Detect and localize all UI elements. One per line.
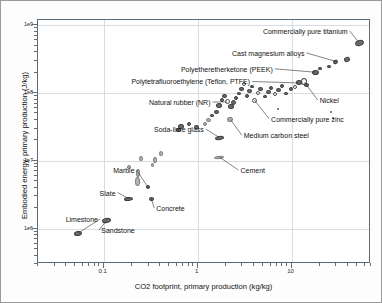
y-tick <box>34 95 37 96</box>
data-point <box>250 85 254 88</box>
x-tick <box>176 263 177 266</box>
data-point <box>293 85 297 89</box>
data-point <box>220 98 224 102</box>
x-axis-title: CO2 footprint, primary production (kg/kg… <box>37 282 370 291</box>
x-tick <box>192 263 193 266</box>
x-tick-label: 10 <box>287 268 294 274</box>
x-tick <box>197 263 198 268</box>
data-point <box>149 197 154 201</box>
data-point <box>318 67 322 70</box>
data-point <box>276 88 281 92</box>
y-tick <box>32 228 37 229</box>
y-tick <box>34 207 37 208</box>
y-tick <box>32 92 37 93</box>
y-tick <box>34 107 37 108</box>
x-tick <box>182 263 183 266</box>
x-tick <box>286 263 287 266</box>
y-tick <box>34 39 37 40</box>
y-tick <box>34 112 37 113</box>
y-tick <box>34 27 37 28</box>
x-tick <box>94 263 95 266</box>
data-point <box>245 94 249 98</box>
data-point <box>74 230 83 236</box>
y-tick <box>34 248 37 249</box>
annotation-label: Limestone <box>66 216 98 223</box>
x-tick <box>356 263 357 266</box>
y-tick <box>34 163 37 164</box>
y-tick <box>32 160 37 161</box>
y-tick <box>34 60 37 61</box>
y-tick <box>34 103 37 104</box>
x-tick <box>291 263 292 268</box>
data-point <box>273 92 277 96</box>
y-tick <box>34 128 37 129</box>
x-gridline <box>198 20 199 262</box>
data-point <box>330 111 332 113</box>
data-point <box>206 118 211 122</box>
x-tick <box>37 263 38 266</box>
data-point <box>210 114 214 117</box>
data-point <box>215 135 224 140</box>
x-tick <box>103 263 104 268</box>
data-point <box>343 56 350 63</box>
data-point <box>234 96 238 100</box>
x-tick <box>168 263 169 266</box>
y-tick <box>34 51 37 52</box>
y-tick-label: 1e9 <box>15 21 33 27</box>
y-tick <box>34 238 37 239</box>
annotation-label: Commercially pure titanium <box>263 27 348 34</box>
annotation-label: Marble <box>113 167 134 174</box>
data-point <box>227 117 234 123</box>
x-tick <box>82 263 83 266</box>
data-point <box>139 156 143 161</box>
x-tick <box>347 263 348 266</box>
y-tick <box>34 72 37 73</box>
annotation-label: Nickel <box>320 97 339 104</box>
data-point <box>222 94 227 98</box>
data-point <box>102 217 112 223</box>
annotation-label: Sandstone <box>101 226 134 233</box>
data-point <box>327 65 331 68</box>
y-tick <box>34 234 37 235</box>
plot-area: Commercially pure titaniumCast magnesium… <box>37 19 370 263</box>
x-tick <box>188 263 189 266</box>
data-point <box>263 95 267 98</box>
annotation-label: Cement <box>240 167 265 174</box>
data-point <box>228 104 234 109</box>
y-tick <box>34 195 37 196</box>
y-tick <box>34 180 37 181</box>
annotation-label: Polytetrafluoroethylene (Teflon, PTFE) <box>131 78 250 85</box>
data-point <box>266 90 271 94</box>
y-tick <box>34 243 37 244</box>
x-tick <box>270 263 271 266</box>
data-point <box>153 157 157 163</box>
annotation-label: Cast magnesium alloys <box>232 49 304 56</box>
x-tick <box>335 263 336 266</box>
x-tick <box>54 263 55 266</box>
data-point <box>124 196 133 201</box>
annotation-label: Slate <box>100 189 116 196</box>
x-tick <box>364 263 365 266</box>
y-tick <box>34 175 37 176</box>
x-tick <box>159 263 160 266</box>
x-tick-label: 1 <box>195 268 198 274</box>
y-tick <box>34 263 37 264</box>
annotation-label: Soda-lime glass <box>154 126 204 133</box>
data-point <box>214 110 219 114</box>
data-point <box>304 83 309 87</box>
y-tick <box>34 31 37 32</box>
y-tick <box>32 24 37 25</box>
y-gridline <box>38 161 369 162</box>
annotation-label: Natural rubber (NR) <box>149 98 210 105</box>
y-tick <box>34 255 37 256</box>
data-point <box>256 91 260 95</box>
data-point <box>216 103 222 108</box>
data-point <box>239 87 244 91</box>
data-point <box>146 185 150 189</box>
x-tick <box>225 263 226 266</box>
y-gridline <box>38 93 369 94</box>
data-point <box>296 80 302 85</box>
data-point <box>135 177 140 186</box>
x-tick <box>253 263 254 266</box>
x-tick <box>262 263 263 266</box>
